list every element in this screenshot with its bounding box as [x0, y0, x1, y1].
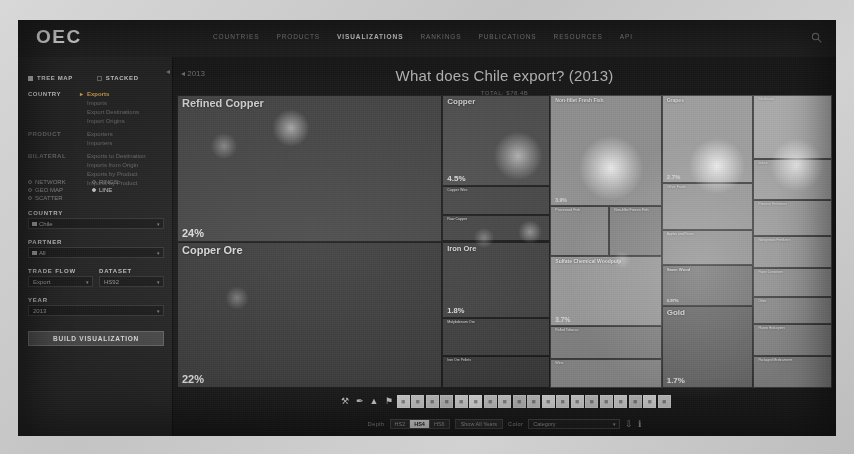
- treemap-cell[interactable]: Rolled Tobacco0.42%: [550, 326, 661, 358]
- precious-metals-icon[interactable]: ■: [513, 395, 526, 408]
- nav-item-products[interactable]: PRODUCTS: [276, 33, 320, 40]
- nav-item-rankings[interactable]: RANKINGS: [420, 33, 461, 40]
- treemap-cell-label: Paper Containers: [758, 271, 828, 274]
- mode-treemap[interactable]: TREE MAP: [28, 75, 73, 81]
- group-label-country[interactable]: COUNTRY: [28, 90, 80, 126]
- foodstuffs-icon[interactable]: ▲: [368, 395, 381, 408]
- treemap-cell[interactable]: Non-fillet Frozen Fish0.86%: [609, 206, 661, 256]
- treemap-cell[interactable]: Nitrogenous Fertilizers0.38%: [753, 236, 832, 268]
- partner-select[interactable]: All: [28, 247, 164, 258]
- hide-icon[interactable]: ✒: [353, 395, 366, 408]
- treemap-cell[interactable]: Copper Wire0.71%: [442, 186, 550, 215]
- viz-type-network[interactable]: NETWORK: [28, 179, 92, 185]
- treemap-cell[interactable]: Non-fillet Fresh Fish3.9%: [550, 95, 661, 206]
- group-label-product[interactable]: PRODUCT: [28, 130, 80, 148]
- instruments-icon[interactable]: ■: [571, 395, 584, 408]
- option-imports-from-origin[interactable]: Imports from Origin: [80, 161, 170, 170]
- depth-hs2[interactable]: HS2: [391, 420, 411, 428]
- nav-item-api[interactable]: API: [620, 33, 633, 40]
- treemap-cell[interactable]: Raw Copper0.52%: [442, 215, 550, 241]
- treemap-cell[interactable]: Iodine0.62%: [753, 159, 832, 200]
- nav-item-publications[interactable]: PUBLICATIONS: [479, 33, 537, 40]
- treemap-cell[interactable]: Apples and Pears0.86%: [662, 230, 754, 265]
- download-icon[interactable]: ⇩: [625, 419, 633, 429]
- viz-type-geomap[interactable]: GEO MAP: [28, 187, 92, 193]
- viz-type-line[interactable]: LINE: [92, 187, 156, 193]
- radio-icon: [28, 188, 32, 192]
- show-all-years-button[interactable]: Show All Years: [455, 419, 503, 429]
- stone-glass-icon[interactable]: ■: [498, 395, 511, 408]
- country-select[interactable]: Chile: [28, 218, 164, 229]
- viz-type-rings[interactable]: RINGS: [92, 179, 156, 185]
- weapons-icon[interactable]: ■: [585, 395, 598, 408]
- info-icon[interactable]: ℹ: [638, 419, 641, 429]
- option-exports-to-destination[interactable]: Exports to Destination: [80, 152, 170, 161]
- footwear-icon[interactable]: ■: [484, 395, 497, 408]
- treemap-cell[interactable]: Other Fruits1.3%: [662, 183, 754, 230]
- search-icon[interactable]: [811, 32, 822, 43]
- treemap-cell[interactable]: Methanol1.1%: [753, 95, 832, 159]
- option-importers[interactable]: Importers: [80, 139, 170, 148]
- dataset-select[interactable]: HS92: [99, 276, 164, 287]
- services-icon[interactable]: ■: [643, 395, 656, 408]
- treemap-cell-percent: 3.7%: [555, 316, 570, 323]
- option-exports[interactable]: Exports: [80, 90, 170, 99]
- chemical-products-icon[interactable]: ■: [426, 395, 439, 408]
- machines-icon[interactable]: ■: [542, 395, 555, 408]
- treemap-cell[interactable]: Potassic Fertilizers0.47%: [753, 200, 832, 235]
- treemap-cell[interactable]: Copper4.5%: [442, 95, 550, 186]
- textiles-icon[interactable]: ■: [469, 395, 482, 408]
- treemap-cell[interactable]: Molybdenum Ore0.93%: [442, 318, 550, 356]
- mineral-products-icon[interactable]: ■: [411, 395, 424, 408]
- depth-label: Depth: [368, 421, 385, 427]
- option-import-origins[interactable]: Import Origins: [80, 117, 170, 126]
- agriculture-icon[interactable]: ⚒: [339, 395, 352, 408]
- treemap-cell[interactable]: Sawn Wood0.97%: [662, 265, 754, 306]
- nav-item-visualizations[interactable]: VISUALIZATIONS: [337, 33, 403, 40]
- option-imports[interactable]: Imports: [80, 99, 170, 108]
- mode-treemap-label: TREE MAP: [37, 75, 73, 81]
- viz-type-list: NETWORK RINGS GEO MAP LINE SCATTER: [28, 179, 170, 201]
- treemap-cell[interactable]: Paper Containers0.29%: [753, 268, 832, 297]
- nav-item-countries[interactable]: COUNTRIES: [213, 33, 259, 40]
- option-exporters[interactable]: Exporters: [80, 130, 170, 139]
- treemap-cell[interactable]: Other0.25%: [753, 297, 832, 323]
- option-export-destinations[interactable]: Export Destinations: [80, 108, 170, 117]
- vegetable-products-icon[interactable]: ■: [397, 395, 410, 408]
- unspecified-icon[interactable]: ■: [629, 395, 642, 408]
- treemap-cell-label: Wine: [555, 362, 657, 366]
- wood-products-icon[interactable]: ■: [658, 395, 671, 408]
- nav-item-resources[interactable]: RESOURCES: [554, 33, 603, 40]
- treemap-cell[interactable]: Planes Helicopters0.21%: [753, 324, 832, 356]
- plastics-icon[interactable]: ■: [440, 395, 453, 408]
- viz-type-scatter[interactable]: SCATTER: [28, 195, 92, 201]
- oec-logo[interactable]: OEC: [36, 26, 82, 48]
- treemap-cell[interactable]: Refined Copper24%: [177, 95, 442, 242]
- depth-hs6[interactable]: HS6: [430, 420, 449, 428]
- depth-hs4[interactable]: HS4: [410, 420, 430, 428]
- treemap-cell[interactable]: Packaged Medicaments0.18%: [753, 356, 832, 388]
- treemap-cell[interactable]: Processed Fish1.2%: [550, 206, 609, 256]
- tradeflow-select[interactable]: Export: [28, 276, 93, 287]
- arts-antiques-icon[interactable]: ■: [600, 395, 613, 408]
- treemap-cell[interactable]: Grapes2.7%: [662, 95, 754, 183]
- country-value: Chile: [39, 221, 53, 227]
- treemap-cell[interactable]: Sulfate Chemical Woodpulp3.7%: [550, 256, 661, 326]
- build-visualization-button[interactable]: BUILD VISUALIZATION: [28, 331, 164, 346]
- transportation-icon[interactable]: ■: [556, 395, 569, 408]
- animal-products-icon[interactable]: ⚑: [382, 395, 395, 408]
- option-exports-by-product[interactable]: Exports by Product: [80, 170, 170, 179]
- paper-goods-icon[interactable]: ■: [455, 395, 468, 408]
- treemap-cell[interactable]: Iron Ore Pellets0.31%: [442, 356, 550, 388]
- treemap-cell[interactable]: Copper Ore22%: [177, 242, 442, 389]
- year-select[interactable]: 2013: [28, 305, 164, 316]
- treemap-cell[interactable]: Gold1.7%: [662, 306, 754, 388]
- treemap-cell-label: Packaged Medicaments: [758, 359, 828, 362]
- misc-icon[interactable]: ■: [614, 395, 627, 408]
- treemap-cell[interactable]: Wine2.4%: [550, 359, 661, 388]
- treemap-cell[interactable]: Iron Ore1.8%: [442, 242, 550, 318]
- treemap-cell-label: Iron Ore: [447, 245, 546, 253]
- mode-stacked[interactable]: STACKED: [97, 75, 139, 81]
- metals-icon[interactable]: ■: [527, 395, 540, 408]
- color-select[interactable]: Category: [528, 419, 620, 429]
